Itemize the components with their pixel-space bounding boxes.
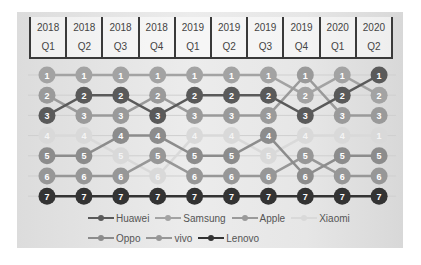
svg-text:6: 6 bbox=[44, 172, 49, 182]
rank-marker-apple: 3 bbox=[75, 107, 92, 124]
svg-text:1: 1 bbox=[229, 71, 234, 81]
svg-text:7: 7 bbox=[266, 192, 271, 202]
svg-text:6: 6 bbox=[266, 172, 271, 182]
legend-label: Lenovo bbox=[226, 233, 259, 244]
rank-marker-samsung: 2 bbox=[371, 87, 388, 104]
rank-marker-vivo: 6 bbox=[75, 168, 92, 185]
svg-text:3: 3 bbox=[118, 111, 123, 121]
rank-marker-xiaomi: 6 bbox=[149, 168, 166, 185]
rank-marker-samsung: 2 bbox=[297, 87, 314, 104]
legend-item-samsung: Samsung bbox=[155, 213, 225, 224]
svg-text:2: 2 bbox=[377, 91, 382, 101]
legend-label: Samsung bbox=[183, 213, 225, 224]
svg-text:3: 3 bbox=[81, 111, 86, 121]
svg-text:4: 4 bbox=[44, 131, 49, 141]
svg-text:5: 5 bbox=[377, 151, 382, 161]
svg-text:4: 4 bbox=[155, 131, 160, 141]
svg-text:1: 1 bbox=[192, 71, 197, 81]
svg-text:6: 6 bbox=[229, 172, 234, 182]
rank-marker-xiaomi: 4 bbox=[334, 127, 351, 144]
legend-label: Oppo bbox=[116, 233, 140, 244]
legend-swatch-icon bbox=[88, 233, 114, 243]
legend-row-2: OppovivoLenovo bbox=[88, 228, 358, 248]
rank-marker-xiaomi: 5 bbox=[260, 147, 277, 164]
rank-marker-apple: 3 bbox=[223, 107, 240, 124]
rank-marker-xiaomi: 4 bbox=[75, 127, 92, 144]
svg-text:4: 4 bbox=[340, 131, 345, 141]
svg-text:3: 3 bbox=[192, 111, 197, 121]
svg-text:2: 2 bbox=[118, 91, 123, 101]
rank-marker-oppo: 4 bbox=[112, 127, 129, 144]
legend-item-apple: Apple bbox=[232, 213, 286, 224]
svg-text:2: 2 bbox=[266, 91, 271, 101]
svg-text:6: 6 bbox=[81, 172, 86, 182]
svg-text:1: 1 bbox=[340, 71, 345, 81]
svg-text:4: 4 bbox=[192, 131, 197, 141]
legend-swatch-icon bbox=[198, 233, 224, 243]
rank-marker-vivo: 6 bbox=[39, 168, 56, 185]
rank-marker-xiaomi: 5 bbox=[112, 147, 129, 164]
svg-text:5: 5 bbox=[266, 151, 271, 161]
svg-text:2: 2 bbox=[81, 91, 86, 101]
rank-marker-lenovo: 7 bbox=[334, 188, 351, 205]
rank-marker-apple: 1 bbox=[297, 67, 314, 84]
svg-text:5: 5 bbox=[118, 151, 123, 161]
rank-marker-apple: 3 bbox=[371, 107, 388, 124]
rank-marker-apple: 3 bbox=[334, 107, 351, 124]
legend-swatch-icon bbox=[291, 213, 317, 223]
rank-marker-samsung: 1 bbox=[223, 67, 240, 84]
legend-item-huawei: Huawei bbox=[88, 213, 149, 224]
rank-marker-lenovo: 7 bbox=[39, 188, 56, 205]
svg-text:2: 2 bbox=[340, 91, 345, 101]
legend-item-oppo: Oppo bbox=[88, 233, 140, 244]
rank-marker-xiaomi: 1 bbox=[371, 127, 388, 144]
rank-marker-xiaomi: 4 bbox=[223, 127, 240, 144]
rank-marker-huawei: 2 bbox=[334, 87, 351, 104]
rank-marker-oppo: 5 bbox=[334, 147, 351, 164]
rank-marker-lenovo: 7 bbox=[75, 188, 92, 205]
svg-text:4: 4 bbox=[81, 131, 86, 141]
rank-marker-vivo: 6 bbox=[260, 168, 277, 185]
rank-marker-oppo: 5 bbox=[223, 147, 240, 164]
svg-text:1: 1 bbox=[155, 71, 160, 81]
svg-text:1: 1 bbox=[377, 71, 382, 81]
svg-text:7: 7 bbox=[118, 192, 123, 202]
svg-text:2: 2 bbox=[155, 91, 160, 101]
rank-marker-oppo: 5 bbox=[39, 147, 56, 164]
rank-marker-huawei: 2 bbox=[112, 87, 129, 104]
svg-text:4: 4 bbox=[118, 131, 123, 141]
rank-marker-vivo: 6 bbox=[334, 168, 351, 185]
series-line-vivo bbox=[47, 156, 379, 176]
rank-marker-oppo: 5 bbox=[186, 147, 203, 164]
rank-marker-vivo: 6 bbox=[223, 168, 240, 185]
svg-text:1: 1 bbox=[118, 71, 123, 81]
svg-text:3: 3 bbox=[340, 111, 345, 121]
legend-item-xiaomi: Xiaomi bbox=[291, 213, 350, 224]
rank-marker-huawei: 2 bbox=[75, 87, 92, 104]
svg-text:3: 3 bbox=[266, 111, 271, 121]
rank-marker-huawei: 3 bbox=[149, 107, 166, 124]
rank-marker-xiaomi: 4 bbox=[39, 127, 56, 144]
svg-text:7: 7 bbox=[44, 192, 49, 202]
rank-marker-oppo: 4 bbox=[149, 127, 166, 144]
rank-marker-huawei: 3 bbox=[39, 107, 56, 124]
svg-text:4: 4 bbox=[303, 131, 308, 141]
svg-text:2: 2 bbox=[303, 91, 308, 101]
series-line-samsung bbox=[47, 75, 379, 95]
rank-marker-xiaomi: 4 bbox=[297, 127, 314, 144]
legend-item-lenovo: Lenovo bbox=[198, 233, 259, 244]
svg-text:7: 7 bbox=[377, 192, 382, 202]
rank-marker-lenovo: 7 bbox=[297, 188, 314, 205]
rank-marker-huawei: 2 bbox=[186, 87, 203, 104]
svg-text:6: 6 bbox=[155, 172, 160, 182]
svg-text:3: 3 bbox=[229, 111, 234, 121]
svg-text:3: 3 bbox=[303, 111, 308, 121]
legend-label: vivo bbox=[174, 233, 192, 244]
rank-marker-samsung: 1 bbox=[260, 67, 277, 84]
rank-marker-samsung: 1 bbox=[186, 67, 203, 84]
rank-marker-apple: 3 bbox=[112, 107, 129, 124]
rank-marker-lenovo: 7 bbox=[371, 188, 388, 205]
svg-text:6: 6 bbox=[192, 172, 197, 182]
legend-swatch-icon bbox=[155, 213, 181, 223]
svg-text:5: 5 bbox=[303, 151, 308, 161]
